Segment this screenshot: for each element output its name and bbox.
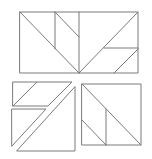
top-rectangle bbox=[20, 12, 138, 73]
bottom-left-pieces bbox=[12, 82, 75, 151]
top-rectangle-line-4 bbox=[79, 12, 138, 73]
bottom-right-square-line-0 bbox=[82, 84, 141, 145]
top-rectangle-line-2 bbox=[55, 12, 79, 37]
bottom-right-square-line-2 bbox=[82, 120, 106, 145]
bottom-left-pieces-piece-2 bbox=[17, 87, 75, 151]
bottom-left-pieces-piece-0 bbox=[13, 82, 72, 106]
top-rectangle-line-0 bbox=[20, 12, 79, 73]
tangram-diagram bbox=[0, 0, 152, 159]
bottom-left-pieces-piece-1 bbox=[12, 109, 46, 146]
bottom-right-square bbox=[82, 84, 141, 145]
top-rectangle-line-6 bbox=[114, 49, 138, 73]
bottom-left-pieces-line-0 bbox=[13, 82, 37, 106]
